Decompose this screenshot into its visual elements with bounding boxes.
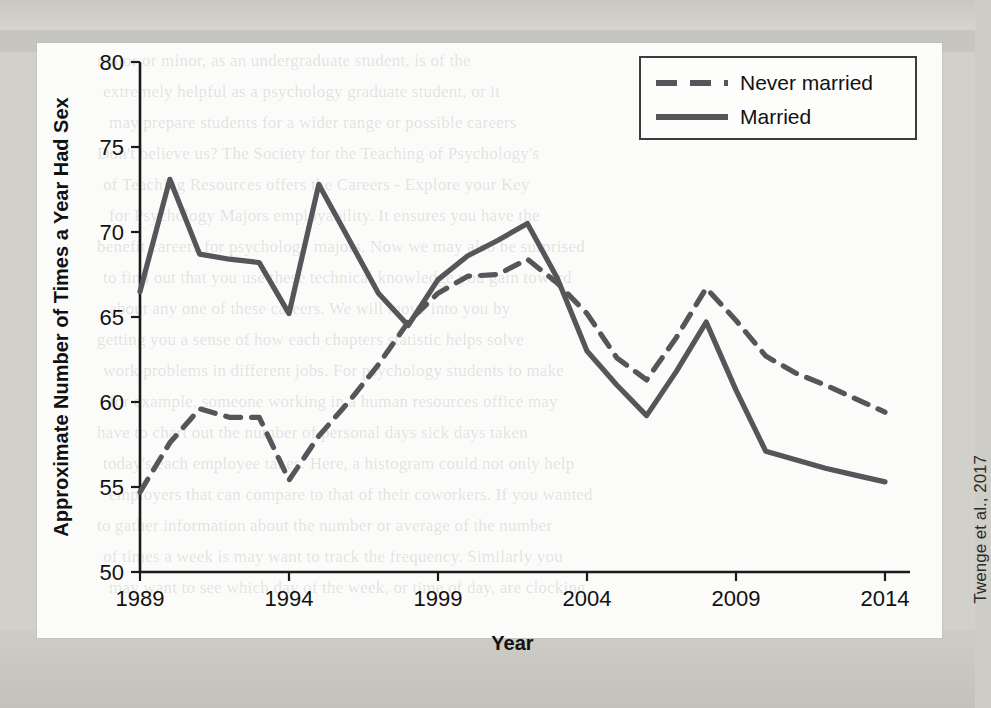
x-axis-tick-label: 2009 [712, 586, 761, 611]
series-line-never-married [140, 259, 885, 492]
y-axis-tick-label: 80 [100, 50, 124, 75]
x-axis-tick-label: 2004 [563, 586, 612, 611]
series-line-married [140, 179, 885, 482]
x-axis-tick-label: 1994 [265, 586, 314, 611]
y-axis-tick-label: 50 [100, 560, 124, 585]
citation-label: Twenge et al., 2017 [971, 455, 991, 603]
y-axis-tick-label: 75 [100, 135, 124, 160]
y-axis-tick-label: 65 [100, 305, 124, 330]
legend-item-label: Never married [740, 71, 873, 94]
x-axis-tick-label: 2014 [861, 586, 910, 611]
y-axis-tick-label: 60 [100, 390, 124, 415]
x-axis-title: Year [491, 632, 533, 654]
y-axis-title: Approximate Number of Times a Year Had S… [50, 97, 72, 536]
y-axis-tick-label: 70 [100, 220, 124, 245]
x-axis-tick-label: 1999 [414, 586, 463, 611]
x-axis-tick-label: 1989 [116, 586, 165, 611]
legend-item-label: Married [740, 105, 811, 128]
y-axis-tick-label: 55 [100, 475, 124, 500]
